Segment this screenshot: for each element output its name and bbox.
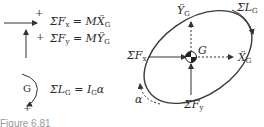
rot-plus-sign: + xyxy=(23,102,31,113)
label-xdd: ẌG xyxy=(238,51,251,65)
label-sum-fx: ΣFx xyxy=(127,49,146,63)
center-label-g: G xyxy=(198,44,207,57)
center-of-mass-icon xyxy=(186,52,197,63)
rot-center-label: G xyxy=(23,83,31,94)
x-plus-sign: + xyxy=(35,7,43,18)
equation-sum-moment: ΣLG = IGα xyxy=(50,83,104,97)
y-plus-sign: + xyxy=(36,31,44,42)
equation-sum-fy: ΣFy = MŸG xyxy=(50,32,110,46)
label-alpha: α xyxy=(135,93,142,106)
label-sum-fy: ΣFy xyxy=(184,98,203,112)
figure-caption: Figure 6.81 xyxy=(0,118,51,127)
label-sum-lg: ΣLG xyxy=(237,1,258,15)
diagram-graphics xyxy=(0,0,264,127)
equation-sum-fx: ΣFx = MẌG xyxy=(50,15,110,29)
label-ydd: ŸG xyxy=(177,4,190,18)
